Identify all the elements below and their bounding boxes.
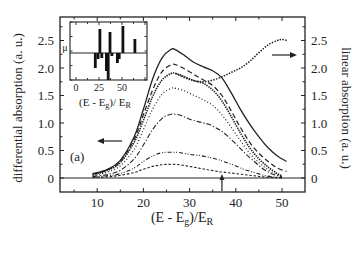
x-tick-label: 20 — [137, 195, 150, 210]
left-y-tick-label: 1.5 — [38, 88, 54, 103]
inset-bar — [107, 53, 110, 80]
inset-bar — [134, 39, 137, 53]
figure: 1020304050 00.51.01.52.02.5 00.51.01.52.… — [0, 0, 362, 265]
inset-x-tick-label: 0 — [74, 82, 79, 93]
right-y-tick-label: 0 — [311, 171, 318, 186]
x-tick-label: 30 — [183, 195, 196, 210]
left-y-tick-label: 1.0 — [38, 116, 54, 131]
left-y-tick-label: 2.5 — [38, 33, 54, 48]
marker-up-arrow-icon — [219, 174, 224, 191]
inset-bar — [100, 53, 103, 58]
inset-bar — [94, 53, 97, 68]
inset-bar — [111, 53, 114, 56]
left-axis-arrow-icon — [97, 138, 122, 144]
right-y-tick-label: 2.0 — [311, 61, 327, 76]
left-y-tick-label: 0.5 — [38, 143, 54, 158]
inset-bar — [109, 32, 112, 53]
panel-label: (a) — [70, 149, 84, 164]
right-axis-arrow-icon — [272, 52, 297, 58]
x-tick-label: 10 — [91, 195, 104, 210]
differential-absorption-curve — [93, 114, 282, 177]
right-y-tick-label: 2.5 — [311, 33, 327, 48]
inset-x-label: (E - Eg)/ ER — [79, 96, 131, 110]
inset-bar — [97, 53, 100, 59]
right-y-tick-label: 0.5 — [311, 143, 327, 158]
left-y-tick-label: 0 — [48, 171, 55, 186]
x-tick-label: 40 — [229, 195, 242, 210]
inset-y-label: μ — [62, 42, 67, 53]
chart-canvas: 1020304050 00.51.01.52.02.5 00.51.01.52.… — [0, 0, 362, 265]
inset-bar — [118, 53, 121, 59]
x-tick-label: 50 — [276, 195, 289, 210]
left-y-axis-label: differential absorption (a. u.) — [10, 33, 25, 183]
right-y-axis-label: linear absorption (a. u.) — [339, 47, 354, 169]
differential-absorption-curve — [93, 152, 282, 177]
left-y-tick-label: 2.0 — [38, 61, 54, 76]
x-axis-label: (E - Eg)/ER — [151, 210, 214, 227]
inset-bar — [122, 26, 125, 53]
inset-bar — [99, 29, 102, 53]
inset-x-tick-label: 50 — [117, 82, 127, 93]
differential-absorption-curve — [93, 164, 282, 178]
inset-x-tick-label: 25 — [94, 82, 104, 93]
right-y-tick-label: 1.0 — [311, 116, 327, 131]
right-y-tick-label: 1.5 — [311, 88, 327, 103]
inset-chart: 02550 μ (E - Eg)/ ER — [62, 22, 147, 110]
